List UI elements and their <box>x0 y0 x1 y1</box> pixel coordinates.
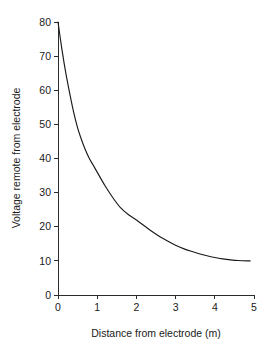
line-chart: 01020304050607080 012345 Distance from e… <box>0 0 268 350</box>
x-tick-label: 4 <box>212 301 218 313</box>
x-tick-label: 5 <box>251 301 257 313</box>
y-tick-label: 80 <box>39 16 51 28</box>
y-tick-label: 60 <box>39 84 51 96</box>
y-tick-label: 40 <box>39 152 51 164</box>
y-tick-label: 10 <box>39 255 51 267</box>
y-tick-label: 20 <box>39 220 51 232</box>
x-tick-label: 2 <box>133 301 139 313</box>
x-tick-label: 3 <box>173 301 179 313</box>
x-tick-label: 1 <box>94 301 100 313</box>
y-axis-title: Voltage remote from electrode <box>10 88 22 229</box>
y-tick-label: 30 <box>39 186 51 198</box>
x-tick-label: 0 <box>55 301 61 313</box>
y-tick-label-group: 01020304050607080 <box>39 16 51 301</box>
chart-figure: 01020304050607080 012345 Distance from e… <box>0 0 268 350</box>
x-axis-title: Distance from electrode (m) <box>91 327 221 339</box>
y-tick-label: 50 <box>39 118 51 130</box>
y-tick-label: 0 <box>45 289 51 301</box>
y-tick-label: 70 <box>39 50 51 62</box>
